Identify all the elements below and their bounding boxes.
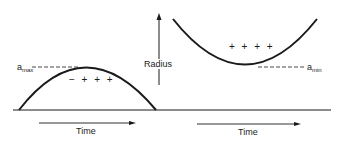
left-charges: − + + +: [69, 74, 115, 85]
amax-sub: max: [22, 67, 33, 73]
right-charges: + + + +: [229, 41, 275, 52]
radius-label: Radius: [143, 59, 173, 69]
diagram-canvas: [0, 0, 339, 143]
left-time-label: Time: [76, 126, 96, 136]
amin-sub: min: [312, 67, 322, 73]
amax-label: amax: [17, 62, 33, 75]
amin-label: amin: [307, 62, 322, 75]
right-time-label: Time: [238, 127, 258, 137]
right-time-arrowhead-icon: [294, 122, 301, 126]
radius-arrowhead-icon: [157, 13, 162, 20]
left-time-arrowhead-icon: [129, 121, 136, 125]
